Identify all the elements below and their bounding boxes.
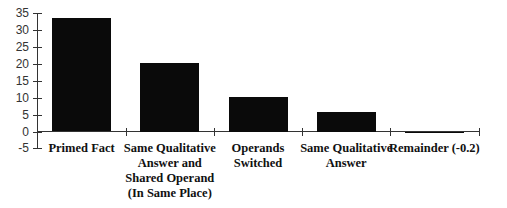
bar — [317, 112, 376, 132]
bar — [140, 63, 199, 132]
y-tick-mark — [33, 64, 42, 65]
y-tick-mark — [33, 132, 42, 133]
y-tick-label: 30 — [3, 24, 29, 36]
y-tick-mark — [33, 115, 42, 116]
y-tick-label: 0 — [3, 126, 29, 138]
y-tick-label: 10 — [3, 92, 29, 104]
x-tick-mark — [479, 128, 480, 136]
y-tick-mark — [33, 47, 42, 48]
y-tick-mark — [33, 81, 42, 82]
y-tick-label: 5 — [3, 109, 29, 121]
bar — [229, 97, 288, 132]
bar-chart: 35302520151050-5 Primed FactSame Qualita… — [0, 0, 507, 208]
x-category-label: Remainder (-0.2) — [374, 141, 494, 156]
y-tick-mark — [33, 13, 42, 14]
y-tick-label: 15 — [3, 75, 29, 87]
bar — [405, 132, 464, 133]
y-tick-mark — [33, 98, 42, 99]
y-tick-label: 20 — [3, 58, 29, 70]
y-tick-label: 35 — [3, 7, 29, 19]
x-tick-mark — [126, 128, 127, 136]
x-tick-mark — [302, 128, 303, 136]
x-tick-mark — [214, 128, 215, 136]
y-tick-mark — [33, 30, 42, 31]
bar — [52, 18, 111, 131]
y-tick-label: 25 — [3, 41, 29, 53]
x-tick-mark — [390, 128, 391, 136]
